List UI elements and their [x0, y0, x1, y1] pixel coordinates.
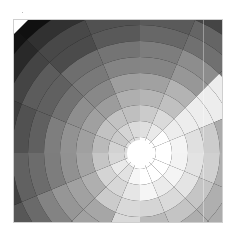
vertical-seam-line [203, 20, 204, 222]
polar-pattern-frame [14, 20, 222, 222]
polar-pattern [14, 20, 222, 222]
stray-pixel [22, 12, 23, 13]
